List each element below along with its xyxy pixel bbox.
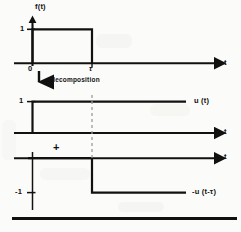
pulse-waveform	[33, 29, 93, 63]
negstep-axis-t-label: t	[224, 153, 227, 161]
unit-step-curve-label: u (t)	[194, 97, 209, 105]
panel-pulse	[14, 16, 216, 68]
figure-title-label: f(t)	[35, 3, 46, 11]
negative-step-curve-label: -u (t-τ)	[192, 188, 216, 196]
unit-step-waveform	[33, 102, 187, 133]
figure-canvas	[0, 0, 241, 232]
panel-negative-step	[14, 152, 216, 210]
pulse-axis-t-label: t	[224, 59, 227, 67]
pulse-vertical-axis-arrow	[29, 16, 37, 24]
plus-operator-label: +	[53, 142, 60, 153]
negstep-tick-minus-one-label: -1	[15, 188, 22, 196]
pulse-tick-tau-label: τ	[89, 65, 92, 73]
pulse-tick-one-label: 1	[20, 25, 24, 33]
decomposition-label: decomposition	[51, 77, 100, 84]
step-axis-t-label: t	[224, 128, 227, 136]
negative-step-waveform	[28, 158, 186, 192]
step-tick-one-label: 1	[19, 97, 23, 105]
panel-unit-step	[14, 102, 216, 133]
signal-decomposition-figure: f(t) 1 0 τ t decomposition 1 u (t) t + t…	[0, 0, 241, 232]
pulse-tick-zero-label: 0	[28, 65, 32, 73]
